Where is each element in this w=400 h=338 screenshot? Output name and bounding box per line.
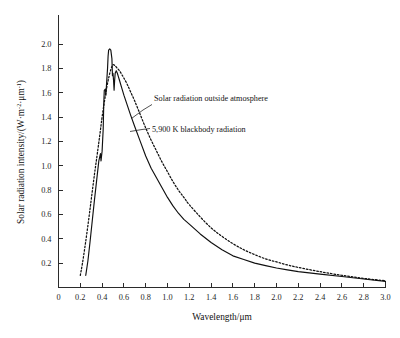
y-axis-title-close: ) [16,80,27,83]
y-axis-title-unit-um: μm [16,88,26,101]
y-axis-ticks [59,44,64,263]
x-tick-label: 0 [56,293,60,302]
y-tick-label: 1.0 [41,162,51,171]
x-axis-ticks [80,283,385,288]
y-tick-label: 0.6 [41,210,51,219]
x-tick-label: 3.0 [380,293,390,302]
y-tick-label: 1.6 [41,89,51,98]
x-tick-label: 0.4 [97,293,108,302]
annotation-label-solar: Solar radiation outside atmosphere [154,94,268,103]
y-tick-label: 1.4 [41,113,52,122]
y-tick-label: 1.2 [41,137,51,146]
annotation-solar-radiation: Solar radiation outside atmosphere [132,94,269,119]
x-axis-tick-labels: 00.20.40.60.81.01.21.41.61.82.02.22.42.6… [56,293,390,302]
x-tick-label: 1.0 [162,293,172,302]
x-tick-label: 1.6 [228,293,238,302]
x-tick-label: 1.8 [250,293,260,302]
y-tick-label: 0.8 [41,186,51,195]
solar-spectrum-figure: 00.20.40.60.81.01.21.41.61.82.02.22.42.6… [0,0,400,338]
x-tick-label: 0.6 [119,293,129,302]
y-axis-tick-labels: 0.20.40.60.81.01.21.41.61.82.0 [41,40,52,268]
x-tick-label: 1.4 [206,293,217,302]
x-tick-label: 0.8 [141,293,151,302]
y-tick-label: 2.0 [41,40,51,49]
x-axis-title: Wavelength/μm [192,312,252,322]
solar-radiation-curve [86,49,386,282]
x-tick-label: 1.2 [184,293,194,302]
x-tick-label: 2.6 [337,293,347,302]
y-tick-label: 0.4 [41,235,52,244]
x-tick-label: 2.4 [315,293,326,302]
svg-text:Solar radiation intensity/(W·m: Solar radiation intensity/(W·m-2·μm-1) [15,80,27,224]
leader-line-solar [132,105,153,119]
chart-canvas: 00.20.40.60.81.01.21.41.61.82.02.22.42.6… [0,0,400,338]
annotation-label-blackbody: 5,900 K blackbody radiation [152,125,246,134]
x-tick-label: 2.0 [271,293,281,302]
y-axis-title: Solar radiation intensity/(W·m-2·μm-1) [15,80,27,224]
y-axis-title-main: Solar radiation intensity/(W [16,119,27,224]
x-tick-label: 2.2 [293,293,303,302]
x-tick-label: 0.2 [75,293,85,302]
y-tick-label: 1.8 [41,64,51,73]
y-tick-label: 0.2 [41,259,51,268]
x-tick-label: 2.8 [359,293,369,302]
